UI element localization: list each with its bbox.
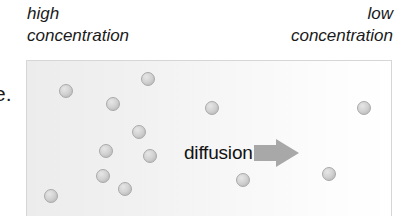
particle bbox=[106, 97, 120, 111]
particle bbox=[322, 167, 336, 181]
arrow-right-icon bbox=[254, 138, 300, 168]
particle bbox=[99, 144, 113, 158]
particle bbox=[141, 72, 155, 86]
diffusion-arrow-group-top: diffusion bbox=[184, 138, 300, 168]
particle bbox=[132, 125, 146, 139]
label-low-concentration: low concentration bbox=[291, 3, 393, 48]
margin-text-fragment-upper: e. bbox=[0, 83, 20, 104]
diffusion-label-top: diffusion bbox=[184, 142, 253, 164]
margin-text-fragment-lower: n bbox=[0, 118, 4, 139]
particle bbox=[59, 84, 73, 98]
label-high-concentration: high concentration bbox=[27, 3, 129, 48]
particle bbox=[118, 182, 132, 196]
particle bbox=[44, 189, 58, 203]
particle bbox=[143, 149, 157, 163]
particle bbox=[96, 169, 110, 183]
particle bbox=[357, 101, 371, 115]
diffusion-figure: e. n high concentration low concentratio… bbox=[0, 0, 401, 216]
particle bbox=[205, 101, 219, 115]
diffusion-panel: diffusion diffusion bbox=[26, 60, 392, 216]
particle bbox=[236, 173, 250, 187]
